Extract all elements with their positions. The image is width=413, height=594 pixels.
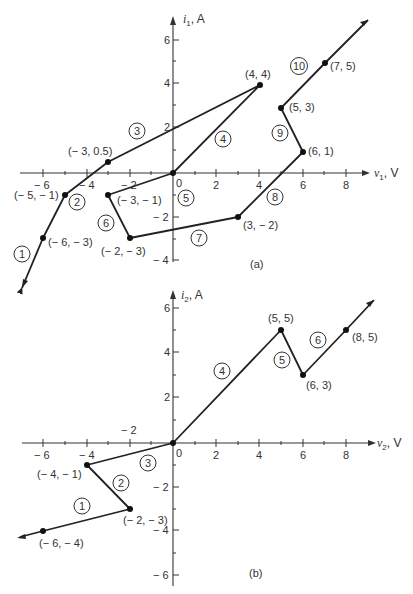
point-label: (− 6, − 3) xyxy=(48,236,93,248)
i2-axis-arrow-icon xyxy=(170,290,176,299)
v2-tick-label: − 2 xyxy=(121,424,137,436)
segment-marker: 1 xyxy=(14,246,30,262)
v1-axis-name: v1, V xyxy=(374,166,398,182)
v2-tick-label: − 4 xyxy=(79,449,95,461)
point-label: (4, 4) xyxy=(245,68,271,80)
v2-axis-arrow-icon xyxy=(368,440,376,446)
segment-marker: 5 xyxy=(274,352,290,368)
point-label: (− 2, − 3) xyxy=(123,514,168,526)
diagram-b: − 6 − 4 − 2 2 4 6 8 6 4 2 − 2 − 4 − 6 0 … xyxy=(17,288,401,586)
point-label: (− 2, − 3) xyxy=(101,245,146,257)
segment-marker: 2 xyxy=(113,475,129,491)
segment-marker: 6 xyxy=(98,215,114,231)
segment-marker: 6 xyxy=(310,332,326,348)
svg-text:1: 1 xyxy=(19,248,25,260)
i1-tick-label: − 2 xyxy=(153,211,169,223)
svg-text:7: 7 xyxy=(196,232,202,244)
v2-tick-label: 6 xyxy=(300,449,306,461)
i1-tick-label: − 4 xyxy=(153,254,169,266)
point-label: (− 3, − 1) xyxy=(117,194,162,206)
svg-text:4: 4 xyxy=(220,133,226,145)
v2-tick-label: − 6 xyxy=(34,449,50,461)
curve-end-arrow-icon xyxy=(366,300,374,307)
segment-marker: 7 xyxy=(191,230,207,246)
svg-text:8: 8 xyxy=(272,191,278,203)
origin-label: 0 xyxy=(176,447,182,459)
segment-marker: 4 xyxy=(215,131,231,147)
segment-marker: 4 xyxy=(214,363,230,379)
svg-text:3: 3 xyxy=(145,457,151,469)
segment-marker: 2 xyxy=(69,194,85,210)
i2-tick-label: 4 xyxy=(164,346,170,358)
v1-tick-label: 6 xyxy=(300,179,306,191)
svg-text:5: 5 xyxy=(279,354,285,366)
i1-tick-label: 4 xyxy=(164,77,170,89)
curve-start-arrow-icon xyxy=(17,534,26,539)
segment-marker: 5 xyxy=(178,190,194,206)
point-label: (5, 5) xyxy=(268,312,294,324)
svg-text:4: 4 xyxy=(219,365,225,377)
piecewise-linear-characteristics-figure: − 6 − 4 − 2 2 4 6 8 6 4 2 − 2 − 4 0 i1, … xyxy=(0,0,413,594)
diagram-a: − 6 − 4 − 2 2 4 6 8 6 4 2 − 2 − 4 0 i1, … xyxy=(14,12,398,288)
i1-tick-label: 6 xyxy=(164,34,170,46)
v2-tick-label: 8 xyxy=(343,449,349,461)
svg-text:2: 2 xyxy=(74,196,80,208)
i2-tick-label: − 2 xyxy=(153,481,169,493)
point-label: (7, 5) xyxy=(330,60,356,72)
svg-text:1: 1 xyxy=(79,500,85,512)
i1-ticks xyxy=(173,40,179,260)
i2-axis-name: i2, A xyxy=(181,288,203,304)
v1-tick-label: 4 xyxy=(256,179,262,191)
i2-tick-label: − 6 xyxy=(153,569,169,581)
point-label: (− 4, − 1) xyxy=(37,468,82,480)
svg-text:6: 6 xyxy=(315,334,321,346)
segment-marker: 8 xyxy=(267,189,283,205)
v2-tick-label: 4 xyxy=(256,449,262,461)
point-label: (− 6, − 4) xyxy=(39,537,84,549)
svg-text:9: 9 xyxy=(277,127,283,139)
curve-start-arrow-icon xyxy=(22,279,28,288)
segment-marker: 9 xyxy=(272,125,288,141)
point-label: (6, 1) xyxy=(308,145,334,157)
caption-b: (b) xyxy=(249,567,262,579)
point-label: (3, − 2) xyxy=(243,219,278,231)
svg-text:10: 10 xyxy=(293,60,305,72)
v2-axis-name: v2, V xyxy=(377,436,401,452)
v1-tick-label: 2 xyxy=(213,179,219,191)
segment-marker: 3 xyxy=(129,123,145,139)
segment-marker: 3 xyxy=(140,455,156,471)
point-label: (− 5, − 1) xyxy=(14,189,59,201)
point-label: (8, 5) xyxy=(352,331,378,343)
v1-axis-arrow-icon xyxy=(362,170,370,176)
origin-label: 0 xyxy=(176,177,182,189)
point-label: (− 3, 0.5) xyxy=(68,145,112,157)
svg-text:3: 3 xyxy=(134,125,140,137)
v1-tick-label: − 4 xyxy=(79,179,95,191)
i1-axis-name: i1, A xyxy=(183,12,205,28)
i2-tick-label: 2 xyxy=(164,391,170,403)
segment-marker: 1 xyxy=(74,498,90,514)
segment-marker: 10 xyxy=(291,58,308,75)
curve-end-arrow-icon xyxy=(360,20,368,26)
point-label: (6, 3) xyxy=(306,379,332,391)
i1-axis-arrow-icon xyxy=(170,16,176,25)
point-label: (5, 3) xyxy=(289,101,315,113)
svg-text:5: 5 xyxy=(183,192,189,204)
v1-tick-label: 8 xyxy=(343,179,349,191)
svg-text:6: 6 xyxy=(103,217,109,229)
caption-a: (a) xyxy=(250,258,263,270)
i2-tick-label: 6 xyxy=(164,302,170,314)
svg-text:2: 2 xyxy=(118,477,124,489)
v2-tick-label: 2 xyxy=(213,449,219,461)
